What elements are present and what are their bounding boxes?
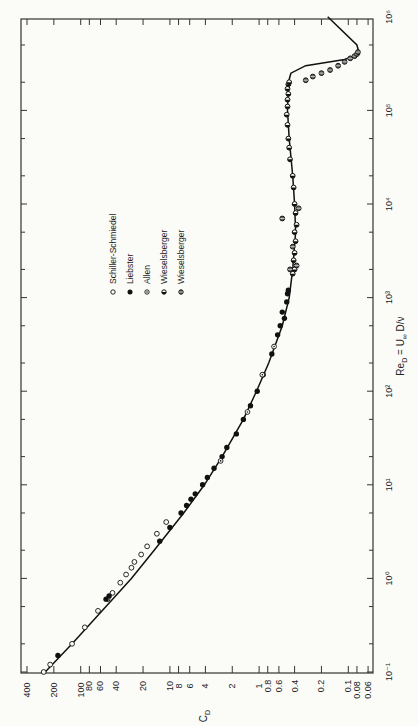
cd-tick-label: 2 xyxy=(227,683,237,688)
cd-tick-label: 6 xyxy=(185,683,195,688)
data-points xyxy=(41,50,360,675)
data-point-half-circle xyxy=(294,222,299,227)
svg-text:10¹: 10¹ xyxy=(384,478,394,491)
re-tick-label: 10⁰ xyxy=(384,571,394,585)
svg-text:200: 200 xyxy=(49,682,59,697)
legend-item: Wieselsberger xyxy=(176,230,186,284)
data-point-half-circle xyxy=(292,251,297,256)
data-point-half-circle xyxy=(292,202,297,207)
data-point-open-circle xyxy=(118,580,123,585)
svg-text:Allen: Allen xyxy=(142,265,152,284)
data-point-filled-circle xyxy=(282,316,287,321)
axis-ticks xyxy=(21,19,373,673)
data-point-half-circle xyxy=(287,80,292,85)
svg-text:10⁰: 10⁰ xyxy=(384,571,394,585)
svg-text:4: 4 xyxy=(200,683,210,688)
re-tick-label: 10² xyxy=(384,385,394,398)
data-point-dotted-circle xyxy=(218,459,223,464)
svg-text:Wieselsberger: Wieselsberger xyxy=(159,230,169,284)
svg-text:40: 40 xyxy=(111,681,121,691)
data-point-filled-circle xyxy=(224,445,229,450)
data-point-half-circle xyxy=(285,97,290,102)
data-point-half-circle xyxy=(291,185,296,190)
legend-item: Allen xyxy=(142,265,152,284)
svg-text:0.4: 0.4 xyxy=(290,680,300,693)
re-tick-label: 10⁶ xyxy=(384,10,394,24)
data-point-filled-circle xyxy=(280,309,285,314)
plot-frame xyxy=(21,19,373,673)
data-point-half-circle xyxy=(288,157,293,162)
data-point-filled-circle xyxy=(269,351,274,356)
re-tick-label: 10¹ xyxy=(384,478,394,491)
data-point-dotted-circle xyxy=(272,344,277,349)
svg-text:6: 6 xyxy=(185,683,195,688)
svg-text:10⁶: 10⁶ xyxy=(384,10,394,24)
data-point-dotted-circle xyxy=(245,410,250,415)
cd-tick-label: 0.06 xyxy=(363,681,373,699)
cd-tick-label: 200 xyxy=(49,682,59,697)
svg-text:CD: CD xyxy=(198,710,211,722)
cd-tick-label: 20 xyxy=(138,681,148,691)
drag-coefficient-chart: 10⁻¹10⁰10¹10²10³10⁴10⁵10⁶400200100806040… xyxy=(0,0,418,726)
data-point-filled-circle xyxy=(128,290,133,295)
legend-item: Schiller-Schmiedel xyxy=(108,214,118,284)
data-point-crossed-circle xyxy=(296,206,301,211)
data-point-open-circle xyxy=(132,560,137,565)
svg-text:8: 8 xyxy=(174,683,184,688)
cd-tick-label: 0.08 xyxy=(352,681,362,699)
data-point-crossed-circle xyxy=(356,50,361,55)
svg-text:ReD = U∞ D/ν: ReD = U∞ D/ν xyxy=(395,316,408,375)
data-point-half-circle xyxy=(285,122,290,127)
data-point-half-circle xyxy=(293,239,298,244)
cd-tick-label: 80 xyxy=(84,681,94,691)
data-point-half-circle xyxy=(292,230,297,235)
cd-tick-label: 60 xyxy=(95,681,105,691)
data-point-filled-circle xyxy=(284,299,289,304)
re-tick-label: 10⁵ xyxy=(384,103,394,117)
data-point-open-circle xyxy=(96,608,101,613)
cd-tick-label: 400 xyxy=(22,682,32,697)
data-point-crossed-circle xyxy=(336,63,341,68)
data-point-open-circle xyxy=(70,641,75,646)
axis-tick-labels: 10⁻¹10⁰10¹10²10³10⁴10⁵10⁶400200100806040… xyxy=(22,10,394,699)
cd-axis-title: CD xyxy=(198,710,211,722)
data-point-crossed-circle xyxy=(179,290,183,294)
data-point-open-circle xyxy=(129,565,134,570)
data-point-crossed-circle xyxy=(303,78,308,83)
data-point-filled-circle xyxy=(184,503,189,508)
svg-text:2: 2 xyxy=(227,683,237,688)
data-point-half-circle xyxy=(291,258,296,263)
data-point-half-circle xyxy=(286,136,291,141)
data-point-half-circle xyxy=(286,92,291,97)
svg-text:60: 60 xyxy=(95,681,105,691)
svg-text:10⁻¹: 10⁻¹ xyxy=(384,663,394,681)
data-point-crossed-circle xyxy=(319,71,324,76)
svg-text:0.2: 0.2 xyxy=(316,680,326,693)
data-point-half-circle xyxy=(293,211,298,216)
drag-curve xyxy=(45,17,359,672)
re-tick-label: 10³ xyxy=(384,291,394,304)
cd-tick-label: 4 xyxy=(200,683,210,688)
data-point-filled-circle xyxy=(255,389,260,394)
data-point-half-circle xyxy=(285,86,290,91)
data-point-half-circle xyxy=(284,112,289,117)
re-axis-title: ReD = U∞ D/ν xyxy=(395,316,408,375)
data-point-open-circle xyxy=(111,290,115,294)
svg-text:10³: 10³ xyxy=(384,291,394,304)
data-point-filled-circle xyxy=(200,482,205,487)
data-point-open-circle xyxy=(48,662,53,667)
data-point-half-circle xyxy=(287,145,292,150)
cd-tick-label: 0.4 xyxy=(290,680,300,693)
data-point-crossed-circle xyxy=(290,244,295,249)
data-point-half-circle xyxy=(290,173,295,178)
re-tick-label: 10⁴ xyxy=(384,197,394,211)
cd-tick-label: 0.8 xyxy=(263,680,273,693)
data-point-filled-circle xyxy=(248,403,253,408)
svg-text:Wieselsberger: Wieselsberger xyxy=(176,230,186,284)
data-point-crossed-circle xyxy=(310,74,315,79)
svg-text:Liebster: Liebster xyxy=(125,254,135,284)
svg-text:0.06: 0.06 xyxy=(363,681,373,699)
data-point-filled-circle xyxy=(55,653,60,658)
data-point-half-circle xyxy=(162,290,166,294)
data-point-crossed-circle xyxy=(280,216,285,221)
